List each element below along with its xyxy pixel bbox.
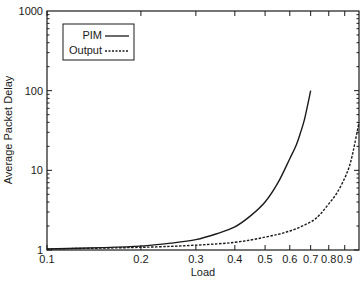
legend-label-output: Output <box>69 44 102 56</box>
x-tick-label: 0.8 <box>321 253 336 265</box>
legend: PIM Output <box>63 24 134 60</box>
x-tick-label: 0.4 <box>227 253 242 265</box>
delay-vs-load-chart: 0.10.20.30.40.50.60.70.80.9 1101001000 L… <box>0 0 363 284</box>
series-line-output <box>47 122 359 249</box>
x-tick-label: 0.5 <box>257 253 272 265</box>
y-tick-label: 10 <box>31 164 43 176</box>
series-line-pim <box>47 91 311 249</box>
x-axis-tick-labels: 0.10.20.30.40.50.60.70.80.9 <box>39 253 352 265</box>
x-tick-label: 0.7 <box>303 253 318 265</box>
x-axis-title: Load <box>191 266 215 278</box>
y-tick-label: 1 <box>37 244 43 256</box>
x-tick-label: 0.6 <box>282 253 297 265</box>
y-tick-label: 100 <box>25 85 43 97</box>
y-axis-title: Average Packet Delay <box>2 75 14 184</box>
data-curves <box>47 91 359 249</box>
legend-label-pim: PIM <box>82 29 102 41</box>
y-axis-tick-labels: 1101001000 <box>19 5 43 256</box>
x-tick-label: 0.9 <box>337 253 352 265</box>
y-tick-label: 1000 <box>19 5 43 17</box>
x-tick-label: 0.2 <box>133 253 148 265</box>
x-tick-label: 0.3 <box>188 253 203 265</box>
